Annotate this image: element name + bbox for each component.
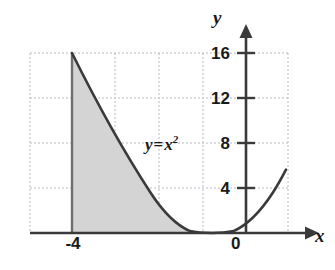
equation-base: x [164,135,173,154]
curve-equation-label: y=x2 [145,136,178,153]
equation-lhs: y [145,135,153,154]
y-tick-label-12: 12 [198,90,230,107]
y-axis-arrowhead [240,24,253,38]
equation-exponent: 2 [173,133,179,145]
y-tick-label-16: 16 [198,45,230,62]
equation-operator: = [153,135,165,154]
x-tick-label-neg-4: -4 [56,235,90,252]
x-axis-label: x [315,226,325,245]
graph-figure: 16 12 8 4 -4 0 y x y=x2 [0,0,335,270]
y-tick-label-4: 4 [198,180,230,197]
origin-label: 0 [231,235,240,252]
y-tick-label-8: 8 [198,135,230,152]
y-axis-label: y [213,8,221,27]
